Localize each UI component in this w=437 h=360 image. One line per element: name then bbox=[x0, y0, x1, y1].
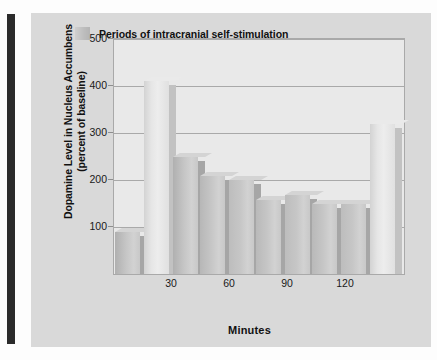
bar-4 bbox=[229, 180, 254, 274]
bar-1 bbox=[144, 81, 169, 274]
x-axis-title: Minutes bbox=[31, 324, 437, 336]
bar-top-6 bbox=[285, 191, 324, 195]
bar-series bbox=[114, 39, 404, 274]
x-tick-label-60: 60 bbox=[223, 277, 235, 289]
bar-face-4 bbox=[229, 180, 254, 274]
bar-5 bbox=[256, 200, 281, 274]
bar-face-3 bbox=[200, 176, 225, 274]
x-tick-label-120: 120 bbox=[336, 277, 354, 289]
bar-0 bbox=[115, 232, 140, 274]
bar-7 bbox=[312, 204, 337, 274]
y-tick-label-300: 300 bbox=[63, 126, 107, 138]
bar-top-1 bbox=[144, 77, 183, 81]
y-tick-label-200: 200 bbox=[63, 173, 107, 185]
x-tick-label-30: 30 bbox=[165, 277, 177, 289]
bar-9 bbox=[370, 124, 395, 274]
bar-face-8 bbox=[341, 204, 366, 275]
y-axis-ticks: 100200300400500 bbox=[59, 38, 107, 275]
left-black-spine bbox=[7, 14, 15, 344]
bar-face-0 bbox=[115, 232, 140, 274]
figure-canvas: Dopamine Level in Nucleus Accumbens (per… bbox=[0, 0, 437, 360]
bar-8 bbox=[341, 204, 366, 275]
y-tick-label-100: 100 bbox=[63, 220, 107, 232]
bar-6 bbox=[285, 195, 310, 274]
plot-area bbox=[113, 38, 405, 275]
bar-3 bbox=[200, 176, 225, 274]
bar-face-2 bbox=[173, 157, 198, 274]
x-axis-ticks: 306090120 bbox=[113, 277, 405, 293]
bar-face-1 bbox=[144, 81, 169, 274]
bar-face-9 bbox=[370, 124, 395, 274]
bar-top-3 bbox=[200, 172, 239, 176]
bar-face-7 bbox=[312, 204, 337, 274]
x-tick-label-90: 90 bbox=[281, 277, 293, 289]
bar-side-9 bbox=[395, 128, 402, 274]
y-tick-label-400: 400 bbox=[63, 79, 107, 91]
bar-face-5 bbox=[256, 200, 281, 274]
bar-top-9 bbox=[370, 120, 409, 124]
bar-face-6 bbox=[285, 195, 310, 274]
bar-top-4 bbox=[229, 176, 268, 180]
y-tick-label-500: 500 bbox=[63, 32, 107, 44]
bar-top-2 bbox=[173, 153, 212, 157]
bar-2 bbox=[173, 157, 198, 274]
